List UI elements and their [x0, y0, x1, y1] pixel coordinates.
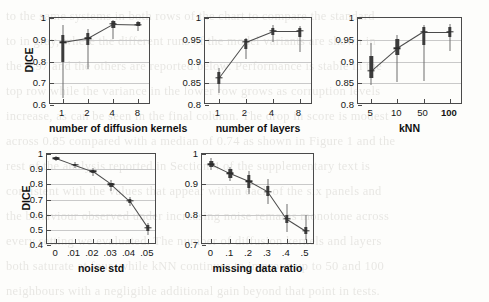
- y-gridline: [202, 215, 313, 216]
- x-tick-label: .2: [244, 247, 252, 258]
- data-point-median: [59, 42, 66, 43]
- y-tick-mark: [205, 18, 209, 19]
- plot-panel-knn: 0.80.850.90.95151050100kNN: [357, 17, 462, 104]
- y-tick-label: 0.6: [33, 99, 46, 110]
- x-tick-label: 2: [242, 107, 247, 118]
- y-tick-label: 1: [196, 12, 201, 23]
- x-tick-label: 4: [269, 107, 274, 118]
- plot-axes-frame: [49, 17, 150, 104]
- data-point-median: [283, 218, 290, 219]
- data-point-median: [394, 48, 401, 49]
- data-point-median: [135, 24, 142, 25]
- y-tick-mark: [50, 105, 54, 106]
- y-tick-label: 0.95: [183, 33, 202, 44]
- error-bar-marker: [50, 154, 62, 243]
- y-tick-label: 1: [41, 12, 46, 23]
- y-gridline: [47, 200, 155, 201]
- y-axis-label: DICE: [20, 178, 32, 218]
- y-tick-label: 0.5: [30, 223, 43, 234]
- plot-panel-layers: 0.80.850.90.9511248number of layers: [204, 17, 312, 104]
- x-tick-label: .05: [140, 247, 153, 258]
- y-tick-label: 1: [193, 148, 198, 159]
- x-tick-label: 5: [367, 107, 372, 118]
- data-point-median: [144, 227, 151, 228]
- y-tick-label: 0.85: [183, 77, 202, 88]
- error-bar-box: [369, 56, 372, 78]
- error-bar-marker: [142, 154, 154, 243]
- y-tick-label: 0.9: [185, 178, 198, 189]
- data-point-median: [302, 230, 309, 231]
- y-tick-label: 0.8: [188, 99, 201, 110]
- y-tick-mark: [47, 245, 51, 246]
- y-tick-mark: [358, 105, 362, 106]
- error-bar-marker: [213, 18, 225, 103]
- error-bar-marker: [57, 18, 69, 103]
- y-tick-mark: [205, 62, 209, 63]
- y-tick-mark: [358, 83, 362, 84]
- error-bar-marker: [105, 154, 117, 243]
- x-tick-label: 2: [84, 107, 89, 118]
- x-tick-label: .4: [282, 247, 290, 258]
- error-bar-marker: [267, 18, 279, 103]
- plot-panel-missing-data-ratio: 0.70.80.910.1.2.3.4.5missing data ratio: [201, 153, 314, 244]
- x-axis-label: noise std: [46, 262, 156, 274]
- x-axis-label: missing data ratio: [201, 262, 314, 274]
- y-tick-label: 0.85: [336, 77, 355, 88]
- y-tick-mark: [205, 40, 209, 41]
- plot-panel-diffusion-kernels: 0.60.70.80.911248number of diffusion ker…: [49, 17, 150, 104]
- y-axis-label: DICE: [23, 40, 35, 80]
- y-tick-label: 0.7: [185, 239, 198, 250]
- error-bar-marker: [262, 154, 274, 243]
- data-point-median: [420, 31, 427, 32]
- bleedthrough-line: neighbours with a negligible additional …: [6, 279, 483, 302]
- y-tick-mark: [358, 18, 362, 19]
- y-tick-label: 0.9: [188, 55, 201, 66]
- data-point-median: [242, 41, 249, 42]
- x-tick-label: .3: [263, 247, 271, 258]
- x-tick-label: 4: [109, 107, 114, 118]
- x-tick-label: 0: [53, 247, 58, 258]
- data-point-median: [246, 181, 253, 182]
- error-bar-marker: [294, 18, 306, 103]
- y-tick-mark: [50, 18, 54, 19]
- data-point-median: [84, 38, 91, 39]
- x-tick-label: 8: [296, 107, 301, 118]
- y-tick-mark: [358, 40, 362, 41]
- y-tick-label: 1: [38, 148, 43, 159]
- error-bar-marker: [87, 154, 99, 243]
- error-bar-marker: [107, 18, 119, 103]
- data-point-median: [126, 200, 133, 201]
- data-point-median: [269, 30, 276, 31]
- error-bar-marker: [243, 154, 255, 243]
- x-tick-label: 10: [391, 107, 402, 118]
- x-tick-label: 8: [135, 107, 140, 118]
- error-bar-marker: [224, 154, 236, 243]
- data-point-median: [296, 30, 303, 31]
- x-tick-label: 0: [208, 247, 213, 258]
- data-point-median: [368, 70, 375, 71]
- error-bar-box: [61, 35, 64, 62]
- data-point-median: [71, 164, 78, 165]
- error-bar-box: [422, 27, 425, 45]
- x-tick-label: .03: [104, 247, 117, 258]
- plot-axes-frame: [201, 153, 314, 244]
- plot-axes-frame: [357, 17, 462, 104]
- plot-axes-frame: [204, 17, 312, 104]
- y-tick-label: 1: [349, 12, 354, 23]
- error-bar-marker: [418, 18, 430, 103]
- data-point-median: [446, 31, 453, 32]
- y-tick-label: 0.9: [30, 163, 43, 174]
- y-tick-mark: [205, 83, 209, 84]
- error-bar-marker: [240, 18, 252, 103]
- y-tick-label: 0.4: [30, 239, 43, 250]
- x-tick-label: 1: [59, 107, 64, 118]
- x-axis-label: number of diffusion kernels: [49, 122, 150, 134]
- y-tick-mark: [50, 40, 54, 41]
- data-point-median: [227, 173, 234, 174]
- x-axis-label: number of layers: [204, 122, 312, 134]
- error-bar-marker: [391, 18, 403, 103]
- y-tick-mark: [50, 62, 54, 63]
- error-bar-marker: [444, 18, 456, 103]
- y-gridline: [47, 230, 155, 231]
